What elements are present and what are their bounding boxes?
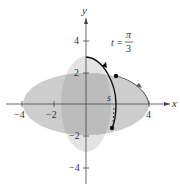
y-tick-label-2: 2 <box>74 67 79 78</box>
arc-length-label: s <box>107 92 111 103</box>
x-axis-arrow-icon <box>164 102 170 106</box>
param-numerator: π <box>126 29 132 40</box>
diagram-canvas: −4 −2 4 4 2 −2 −4 x y s t = π 3 <box>0 0 180 194</box>
x-tick-label-neg2: −2 <box>46 109 57 120</box>
x-axis-label: x <box>171 97 177 109</box>
start-point-dot <box>110 126 114 130</box>
y-axis-label: y <box>81 4 87 16</box>
x-tick-label-4: 4 <box>146 109 151 120</box>
x-tick-label-neg4: −4 <box>14 109 25 120</box>
y-tick-label-4: 4 <box>74 35 79 46</box>
param-lhs: t = <box>111 37 123 48</box>
end-point-dot <box>114 74 118 78</box>
y-tick-label-neg4: −4 <box>69 162 80 173</box>
param-denominator: 3 <box>126 43 131 54</box>
y-tick-label-neg2: −2 <box>69 130 80 141</box>
y-axis-arrow-icon <box>84 18 88 24</box>
